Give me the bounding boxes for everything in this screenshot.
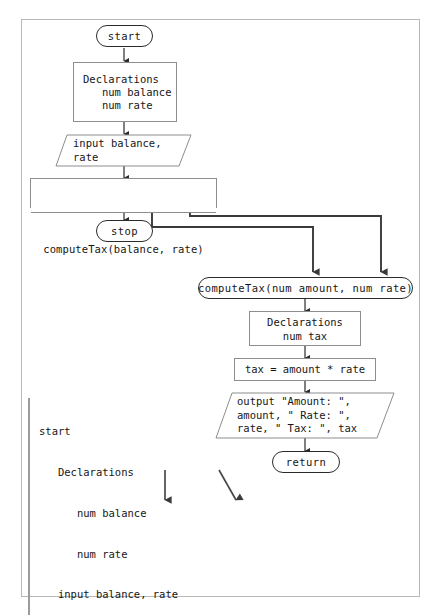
declarations-module-label: Declarations num tax bbox=[267, 315, 343, 343]
stop-terminator: stop bbox=[96, 220, 153, 242]
pseudocode-panel: start Declarations num balance num rate … bbox=[28, 398, 394, 615]
module-call-label: computeTax(balance, rate) bbox=[31, 239, 216, 259]
module-header-terminator: computeTax(num amount, num rate) bbox=[198, 277, 413, 299]
declarations-box-main: Declarations num balance num rate bbox=[73, 62, 177, 122]
start-terminator: start bbox=[96, 25, 153, 47]
pseudocode-main-line: input balance, rate bbox=[39, 588, 394, 602]
start-label: start bbox=[108, 30, 142, 43]
input-parallelogram: input balance, rate bbox=[55, 134, 192, 167]
flowchart-figure: start Declarations num balance num rate … bbox=[0, 0, 444, 615]
pseudocode-main-line: num rate bbox=[39, 548, 394, 562]
pseudocode-main-line: Declarations bbox=[39, 466, 394, 480]
stop-label: stop bbox=[111, 225, 138, 238]
module-header-label: computeTax(num amount, num rate) bbox=[198, 282, 413, 295]
input-label: input balance, rate bbox=[73, 137, 162, 164]
module-call-box: computeTax(balance, rate) bbox=[30, 178, 217, 208]
pseudocode-main-line: num balance bbox=[39, 507, 394, 521]
assignment-label: tax = amount * rate bbox=[245, 363, 365, 376]
assignment-box: tax = amount * rate bbox=[234, 358, 376, 381]
module-call-cap bbox=[31, 205, 216, 213]
pseudocode-main-line: start bbox=[39, 425, 394, 439]
declarations-box-module: Declarations num tax bbox=[249, 311, 361, 346]
declarations-main-label: Declarations num balance num rate bbox=[83, 73, 172, 112]
